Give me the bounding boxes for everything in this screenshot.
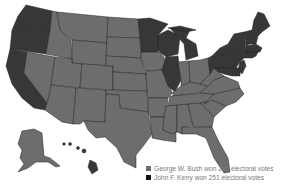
legend-item-bush: George W. Bush won 286 electoral votes (146, 164, 274, 173)
legend-label-bush: George W. Bush won 286 electoral votes (154, 164, 274, 173)
state-nm (73, 88, 106, 124)
legend: George W. Bush won 286 electoral votes J… (146, 164, 274, 182)
us-electoral-map (0, 0, 284, 185)
state-ma (246, 44, 262, 52)
state-hi (63, 143, 98, 175)
state-wa (18, 5, 52, 31)
state-co (80, 64, 113, 90)
state-wy (72, 40, 107, 66)
state-ks (113, 72, 147, 91)
legend-label-kerry: John F. Kerry won 251 electoral votes (154, 173, 264, 182)
legend-item-kerry: John F. Kerry won 251 electoral votes (146, 173, 274, 182)
state-ak (18, 129, 60, 172)
state-nd (107, 17, 140, 38)
bush-swatch-icon (146, 166, 151, 171)
state-sd (106, 37, 141, 58)
kerry-swatch-icon (146, 175, 151, 180)
state-ia (141, 52, 166, 71)
